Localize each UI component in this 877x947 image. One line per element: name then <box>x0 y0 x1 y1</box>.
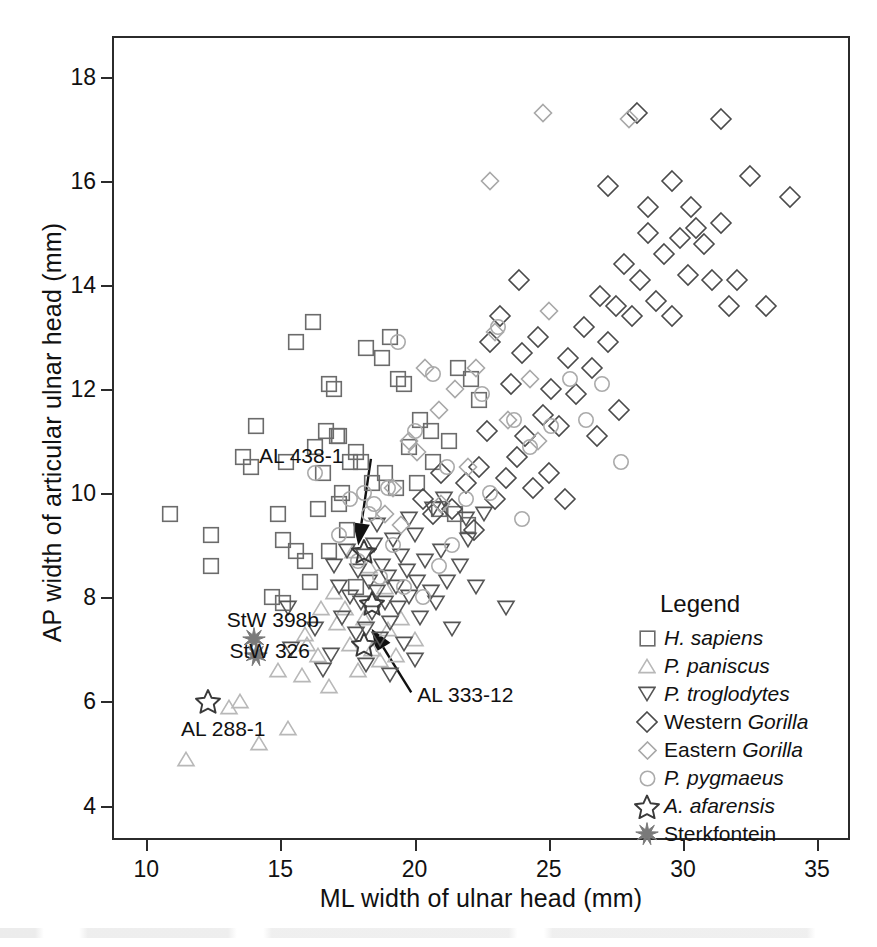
legend-item: Sterkfontein <box>630 820 826 848</box>
annotation-label: AL 333-12 <box>417 683 513 707</box>
x-tick-label: 15 <box>268 856 294 883</box>
circle-icon <box>630 770 664 787</box>
x-tick <box>549 838 551 851</box>
legend-item-label: P. pygmaeus <box>664 766 784 790</box>
y-tick-label: 8 <box>83 584 96 611</box>
y-tick <box>101 77 114 79</box>
y-tick-label: 10 <box>70 480 96 507</box>
legend-item-label: P. troglodytes <box>664 682 790 706</box>
legend-item: P. troglodytes <box>630 680 826 708</box>
legend-item-label: Eastern Gorilla <box>664 738 803 762</box>
legend-item-label: A. afarensis <box>664 794 775 818</box>
legend-item-label: H. sapiens <box>664 626 763 650</box>
triangle-up-icon <box>630 658 664 674</box>
legend-item: Western Gorilla <box>630 708 826 736</box>
y-tick-label: 12 <box>70 376 96 403</box>
plot-area: 4681012141618 101520253035 AL 438-1AL 33… <box>112 36 850 840</box>
caption-strip <box>0 928 877 938</box>
star-icon <box>630 794 664 819</box>
x-tick-label: 10 <box>133 856 159 883</box>
y-tick-label: 14 <box>70 272 96 299</box>
annotation-label: StW 398b <box>227 608 319 632</box>
y-tick <box>101 493 114 495</box>
y-tick <box>101 597 114 599</box>
legend-item-label: Western Gorilla <box>664 710 808 734</box>
legend-item: H. sapiens <box>630 624 826 652</box>
y-tick-label: 16 <box>70 168 96 195</box>
x-tick-label: 20 <box>402 856 428 883</box>
y-tick <box>101 389 114 391</box>
square-icon <box>630 630 664 647</box>
annotation-label: AL 288-1 <box>181 717 265 741</box>
y-tick <box>101 285 114 287</box>
diamond-small-icon <box>630 741 664 760</box>
y-axis-title: AP width of articular ulnar head (mm) <box>38 113 67 753</box>
legend: Legend H. sapiensP. paniscusP. troglodyt… <box>630 590 826 848</box>
legend-item: A. afarensis <box>630 792 826 820</box>
x-tick-label: 35 <box>804 856 830 883</box>
y-tick <box>101 181 114 183</box>
x-tick <box>415 838 417 851</box>
legend-item-label: Sterkfontein <box>664 822 776 846</box>
y-tick-label: 4 <box>83 792 96 819</box>
legend-title: Legend <box>660 590 826 618</box>
legend-items: H. sapiensP. paniscusP. troglodytesWeste… <box>630 624 826 848</box>
annotation-label: AL 438-1 <box>259 444 343 468</box>
legend-item: P. paniscus <box>630 652 826 680</box>
x-axis-title: ML width of ulnar head (mm) <box>112 884 850 913</box>
legend-item-label: P. paniscus <box>664 654 770 678</box>
x-tick-label: 30 <box>670 856 696 883</box>
y-tick <box>101 701 114 703</box>
legend-item: Eastern Gorilla <box>630 736 826 764</box>
diamond-large-icon <box>630 711 664 733</box>
x-tick <box>280 838 282 851</box>
y-tick-label: 18 <box>70 64 96 91</box>
annotation-label: StW 326 <box>229 639 310 663</box>
figure: AP width of articular ulnar head (mm) ML… <box>0 0 877 947</box>
legend-item: P. pygmaeus <box>630 764 826 792</box>
y-tick-label: 6 <box>83 688 96 715</box>
x-tick <box>146 838 148 851</box>
triangle-down-icon <box>630 686 664 702</box>
y-tick <box>101 806 114 808</box>
starburst-icon <box>630 822 664 846</box>
x-tick-label: 25 <box>536 856 562 883</box>
